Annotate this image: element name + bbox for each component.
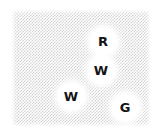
marker-g[interactable]: G	[114, 96, 137, 119]
marker-w-1[interactable]: W	[90, 59, 113, 82]
marker-label: W	[94, 64, 108, 77]
marker-w-2[interactable]: W	[60, 85, 83, 108]
marker-label: W	[64, 90, 78, 103]
marker-r[interactable]: R	[92, 30, 115, 53]
marker-map-canvas: RWWG	[0, 0, 156, 134]
marker-label: G	[120, 101, 131, 114]
marker-label: R	[98, 35, 108, 48]
